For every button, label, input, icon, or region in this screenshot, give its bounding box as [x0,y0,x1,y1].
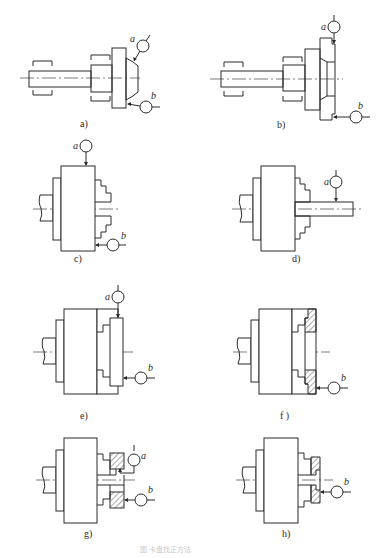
indicator-label-b: b [121,230,126,241]
dial-indicator-b: b [123,362,155,384]
spindle-shaft [221,71,283,87]
panel-f: b f ) [233,309,348,422]
bearing-bracket [283,96,302,101]
panel-h: b h) [236,438,351,540]
dial-indicator-b: b [124,484,155,506]
indicator-label-a: a [130,33,135,44]
disk-workpiece [110,318,123,386]
indicator-label-a: a [324,176,329,187]
indicator-label-b: b [148,484,153,495]
panel-label-f: f ) [280,410,289,422]
hatched-workpiece-lower [110,492,124,508]
chuck-body [259,309,292,394]
indicator-label-a: a [321,21,326,32]
panel-e: a b e) [33,285,155,422]
dial-indicator-a: a [130,33,150,61]
hatched-ring-lower [311,485,320,503]
chuck-body [64,309,97,394]
dial-indicator-b: b [316,372,348,394]
panel-label-c: c) [74,253,82,265]
chuck-jaw-upper [298,453,311,475]
panel-label-e: e) [80,410,88,422]
chuck-back-plate [53,178,61,240]
chuck-body [264,438,298,523]
bore-step [110,469,116,475]
dial-indicator-a: a [321,15,340,44]
panel-c: a b c) [33,140,126,265]
spindle-end [240,195,253,222]
chuck-body [64,438,97,523]
break-line [39,195,42,221]
chuck-back-plate [253,178,261,240]
panel-a: a b a) [20,33,160,130]
chuck-jaw-lower [295,216,310,239]
chuck-jaw-lower [298,485,311,507]
bearing-bracket [224,62,243,67]
chuck-jaw-upper [295,178,310,202]
panel-label-g: g) [84,528,92,540]
hatched-ring-upper [311,457,320,475]
chuck-back-plate [256,450,264,511]
spindle-end [40,195,53,221]
spindle-end [43,338,56,364]
break-line [239,195,242,222]
spindle-end [238,338,251,364]
tapered-workpiece [126,58,138,100]
shaft-step [283,65,305,91]
setup-diagram-figure: a b a) a [0,0,382,558]
bearing-bracket [283,57,302,62]
panel-label-b: b) [277,119,285,131]
shaft-step [91,65,112,92]
chuck-body [261,166,295,251]
spindle-shaft [29,71,91,87]
indicator-label-b: b [358,100,363,111]
bearing-bracket [33,90,52,95]
panel-b: a b b) [210,15,370,131]
inner-taper [320,58,335,62]
flange [305,49,320,110]
dial-indicator-b: b [127,90,160,113]
break-line [42,338,45,364]
indicator-label-b: b [148,362,153,373]
panel-label-d: d) [292,253,300,265]
chuck-back-plate [251,320,259,382]
dial-indicator-b: b [320,476,351,498]
bearing-bracket [224,91,243,96]
dial-indicator-b: b [333,100,370,123]
chuck-back-plate [56,450,64,511]
dial-indicator-b: b [95,230,126,251]
dial-indicator-a: a [324,170,342,202]
break-line [237,338,240,364]
panel-g: a b g) [36,438,155,540]
panel-label-h: h) [282,528,290,540]
bearing-bracket [91,96,110,101]
panel-label-a: a) [80,118,88,130]
chuck-body [61,166,95,251]
chuck-jaw-lower [97,485,110,505]
chuck-jaw-upper [95,180,111,202]
indicator-label-a: a [141,450,146,461]
panel-d: a d) [232,166,362,265]
dial-indicator-a: a [73,140,92,166]
indicator-label-b: b [151,90,156,101]
inner-taper [320,96,335,100]
bearing-bracket [33,61,52,66]
indicator-label-b: b [341,372,346,383]
bearing-bracket [91,55,110,60]
indicator-label-b: b [344,476,349,487]
chuck-jaw-lower [95,216,111,238]
figure-caption: 图 卡盘找正方法 [140,545,191,554]
chuck-jaw-upper [97,454,110,475]
indicator-label-a: a [73,140,78,151]
chuck-back-plate [56,320,64,382]
hatched-workpiece-upper [110,453,124,469]
indicator-label-a: a [105,291,110,302]
